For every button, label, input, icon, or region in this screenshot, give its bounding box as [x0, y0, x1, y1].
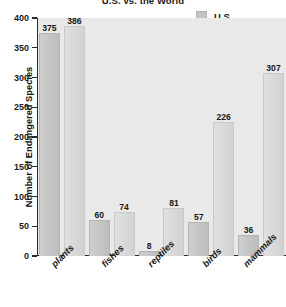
- bar-plants-world[interactable]: 386: [64, 26, 85, 256]
- bar-slot: 386: [62, 18, 87, 256]
- bar-slot: 36: [236, 18, 261, 256]
- y-axis-tick: 100: [14, 192, 37, 202]
- y-axis-tick-label: 350: [14, 43, 32, 53]
- y-axis-tick-label: 100: [14, 192, 32, 202]
- bar-groups: 37538660748815722636307: [37, 18, 286, 256]
- bar-value-label: 375: [42, 23, 56, 33]
- x-axis-labels: plantsfishesreptilesbirdsmammals: [37, 258, 286, 307]
- bar-value-label: 57: [194, 212, 204, 222]
- bar-value-label: 81: [169, 198, 179, 208]
- bar-fishes-us[interactable]: 60: [89, 220, 110, 256]
- x-axis-label-cell: plants: [37, 258, 87, 307]
- bar-value-label: 226: [217, 112, 231, 122]
- bar-value-label: 36: [244, 225, 254, 235]
- chart-title: U.S. vs. the World: [0, 0, 286, 6]
- bar-slot: 81: [161, 18, 186, 256]
- bar-plants-us[interactable]: 375: [39, 33, 60, 256]
- bar-group: 6074: [87, 18, 137, 256]
- x-axis-label-cell: mammals: [236, 258, 286, 307]
- y-axis-tick-label: 50: [19, 221, 32, 231]
- y-axis-tick-label: 150: [14, 162, 32, 172]
- bar-mammals-world[interactable]: 307: [263, 73, 284, 256]
- y-axis-tick: 400: [14, 13, 37, 23]
- bar-slot: 8: [137, 18, 162, 256]
- y-axis-tick: 300: [14, 73, 37, 83]
- y-axis-tick-label: 250: [14, 102, 32, 112]
- y-axis-tick-label: 200: [14, 132, 32, 142]
- y-axis-tick: 150: [14, 162, 37, 172]
- bar-birds-us[interactable]: 57: [188, 222, 209, 256]
- bar-slot: 375: [37, 18, 62, 256]
- chart-container: U.S. vs. the World U.S. World Number of …: [0, 0, 286, 307]
- bar-value-label: 74: [119, 202, 129, 212]
- y-axis-tick: 0: [24, 251, 37, 261]
- x-axis-label-cell: fishes: [87, 258, 137, 307]
- bar-group: 36307: [236, 18, 286, 256]
- bar-birds-world[interactable]: 226: [213, 122, 234, 256]
- y-axis-tick: 50: [19, 221, 37, 231]
- bar-value-label: 307: [266, 63, 280, 73]
- bar-value-label: 8: [147, 241, 152, 251]
- y-axis-tick-label: 300: [14, 73, 32, 83]
- bar-slot: 57: [186, 18, 211, 256]
- y-axis-tick: 200: [14, 132, 37, 142]
- bar-group: 881: [137, 18, 187, 256]
- y-axis-tick-label: 0: [24, 251, 32, 261]
- x-axis-label-cell: birds: [186, 258, 236, 307]
- bar-value-label: 60: [94, 210, 104, 220]
- x-axis-label-cell: reptiles: [137, 258, 187, 307]
- bar-group: 57226: [186, 18, 236, 256]
- bar-slot: 74: [112, 18, 137, 256]
- bar-value-label: 386: [67, 16, 81, 26]
- bar-slot: 307: [261, 18, 286, 256]
- bar-slot: 226: [211, 18, 236, 256]
- y-axis-tick-label: 400: [14, 13, 32, 23]
- y-axis-tick: 250: [14, 102, 37, 112]
- plot-area: 050100150200250300350400 375386607488157…: [37, 18, 286, 256]
- bar-slot: 60: [87, 18, 112, 256]
- y-axis-tick: 350: [14, 43, 37, 53]
- bar-group: 375386: [37, 18, 87, 256]
